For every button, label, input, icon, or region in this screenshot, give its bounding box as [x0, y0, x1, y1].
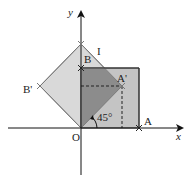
y-axis-label: y [67, 6, 73, 18]
origin-label: O [72, 131, 80, 143]
angle-label: 45° [97, 111, 112, 123]
point-i-label: I [97, 45, 101, 57]
point-b-label: B [84, 53, 91, 65]
point-a-prime-label: A' [117, 72, 127, 84]
diagram-canvas: y x O A B I B' A' 45° [0, 0, 190, 179]
x-axis-label: x [175, 130, 181, 142]
point-b-prime-label: B' [23, 83, 32, 95]
point-a-label: A [144, 115, 152, 127]
